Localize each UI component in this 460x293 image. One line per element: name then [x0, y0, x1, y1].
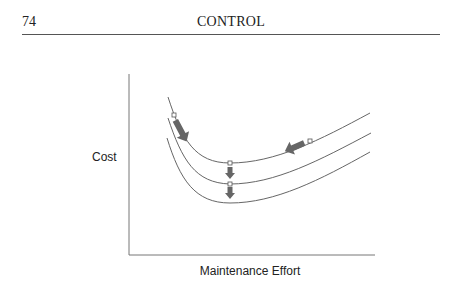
marker-right-upper	[308, 139, 312, 143]
y-axis-label: Cost	[92, 150, 117, 164]
upper-cost-curve	[168, 97, 370, 163]
lower-cost-curve	[167, 138, 370, 203]
marker-left-upper	[172, 113, 176, 117]
axes	[129, 74, 375, 255]
marker-min-upper	[228, 161, 232, 165]
middle-cost-curve	[168, 118, 371, 184]
arrow-down-icon	[225, 167, 235, 179]
arrow-down-icon	[225, 187, 235, 199]
cost-curve-figure	[0, 0, 460, 293]
arrow-down-left-icon	[282, 137, 307, 158]
x-axis-label: Maintenance Effort	[0, 264, 460, 278]
marker-min-middle	[228, 182, 232, 186]
